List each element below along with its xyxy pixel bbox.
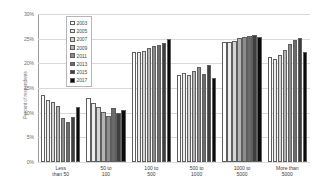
legend-item-2003[interactable]: 2003 <box>70 20 87 26</box>
bar-2007 <box>278 55 282 162</box>
legend-label: 2007 <box>77 36 88 42</box>
bar-group <box>174 14 219 162</box>
legend-swatch-icon <box>70 21 75 26</box>
bar-2015 <box>298 38 302 162</box>
bar-2011 <box>106 116 110 162</box>
legend-item-2009[interactable]: 2009 <box>70 45 87 51</box>
legend-swatch-icon <box>70 45 75 50</box>
bar-group <box>129 14 174 162</box>
x-category-label: Less than 50 <box>38 165 83 178</box>
bar-2013 <box>202 74 206 162</box>
bar-2007 <box>142 51 146 162</box>
bar-2015 <box>207 65 211 162</box>
bar-2005 <box>91 103 95 162</box>
x-category-label: 50 to 100 <box>83 165 128 178</box>
bar-2011 <box>152 46 156 162</box>
bar-2009 <box>237 38 241 162</box>
legend-label: 2011 <box>77 53 87 59</box>
bar-2017 <box>303 52 307 162</box>
legend-swatch-icon <box>70 29 75 34</box>
bar-2009 <box>147 48 151 162</box>
bar-2015 <box>71 117 75 162</box>
y-tick-label: 10% <box>2 110 34 116</box>
bar-2017 <box>76 107 80 162</box>
bar-2003 <box>86 98 90 162</box>
bar-2015 <box>162 43 166 162</box>
bar-2009 <box>101 112 105 162</box>
bar-2011 <box>197 67 201 162</box>
y-tick-label: 20% <box>2 60 34 66</box>
bar-2003 <box>222 42 226 162</box>
legend-swatch-icon <box>70 62 75 67</box>
bar-2005 <box>227 42 231 162</box>
legend-item-2011[interactable]: 2011 <box>70 53 87 59</box>
bar-2013 <box>66 122 70 162</box>
y-tick-label: 0% <box>2 159 34 165</box>
legend-item-2013[interactable]: 2013 <box>70 61 87 67</box>
bar-2005 <box>273 59 277 162</box>
bar-2005 <box>46 100 50 162</box>
x-axis-category-labels: Less than 5050 to 100100 to 500500 to 10… <box>38 165 310 178</box>
y-tick-label: 30% <box>2 11 34 17</box>
bar-2005 <box>137 52 141 162</box>
bar-2007 <box>187 75 191 162</box>
legend-item-2015[interactable]: 2015 <box>70 69 87 75</box>
bar-2005 <box>182 73 186 162</box>
x-category-label: 500 to 1000 <box>174 165 219 178</box>
bar-2003 <box>132 52 136 162</box>
x-category-label: 1000 to 5000 <box>219 165 264 178</box>
bar-2017 <box>257 37 261 162</box>
bar-2013 <box>157 45 161 162</box>
bar-chart: Percent of respondents 0%5%10%15%20%25%3… <box>0 0 319 189</box>
y-tick-label: 25% <box>2 36 34 42</box>
bar-2009 <box>192 71 196 162</box>
x-category-label: More than 5000 <box>265 165 310 178</box>
bar-group <box>265 14 310 162</box>
legend-label: 2005 <box>77 28 88 34</box>
bar-2017 <box>167 39 171 162</box>
bar-2011 <box>61 118 65 162</box>
legend-label: 2013 <box>77 61 88 67</box>
legend-item-2005[interactable]: 2005 <box>70 28 87 34</box>
legend-label: 2015 <box>77 69 88 75</box>
legend-swatch-icon <box>70 78 75 83</box>
y-tick-label: 5% <box>2 134 34 140</box>
bar-group <box>219 14 264 162</box>
bar-2007 <box>96 107 100 162</box>
bar-2009 <box>283 50 287 162</box>
bar-2013 <box>111 108 115 162</box>
y-tick-label: 15% <box>2 85 34 91</box>
bar-2015 <box>252 35 256 162</box>
legend-item-2007[interactable]: 2007 <box>70 36 87 42</box>
x-category-label: 100 to 500 <box>129 165 174 178</box>
bar-2003 <box>268 57 272 162</box>
bar-2017 <box>212 78 216 162</box>
legend-label: 2003 <box>77 20 88 26</box>
bar-2015 <box>116 113 120 162</box>
legend-swatch-icon <box>70 53 75 58</box>
legend-label: 2009 <box>77 45 88 51</box>
legend-item-2017[interactable]: 2017 <box>70 77 87 83</box>
legend-swatch-icon <box>70 70 75 75</box>
bar-2017 <box>121 110 125 162</box>
bar-2003 <box>177 75 181 162</box>
bar-2011 <box>242 37 246 162</box>
legend-label: 2017 <box>77 77 88 83</box>
bar-2003 <box>41 95 45 162</box>
bar-2009 <box>56 106 60 162</box>
legend-swatch-icon <box>70 37 75 42</box>
bar-2013 <box>293 40 297 162</box>
gridline-0 <box>38 162 310 163</box>
bar-2007 <box>232 41 236 162</box>
bar-2011 <box>288 44 292 162</box>
bar-2013 <box>247 36 251 162</box>
bar-2007 <box>51 102 55 162</box>
legend[interactable]: 20032005200720092011201320152017 <box>66 16 92 87</box>
